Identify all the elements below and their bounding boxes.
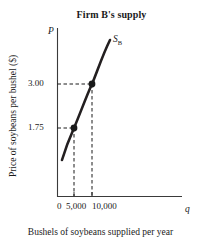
- x-tick-label-5000: 5,000: [66, 201, 86, 211]
- data-point-10000-300: [89, 81, 96, 88]
- y-axis-symbol: P: [48, 26, 54, 36]
- figure-container: Firm B's supply Price of soybeans per bu…: [0, 0, 201, 249]
- y-tick-label-300: 3.00: [28, 78, 44, 88]
- supply-curve: [62, 40, 110, 160]
- x-tick-label-0: 0: [57, 201, 62, 211]
- y-tick-label-175: 1.75: [28, 122, 44, 132]
- x-axis-symbol: q: [185, 204, 190, 214]
- supply-curve-label: SB: [113, 34, 122, 46]
- supply-curve-label-subscript: B: [118, 39, 122, 46]
- data-point-5000-175: [71, 125, 78, 132]
- x-tick-label-10000: 10,000: [92, 201, 117, 211]
